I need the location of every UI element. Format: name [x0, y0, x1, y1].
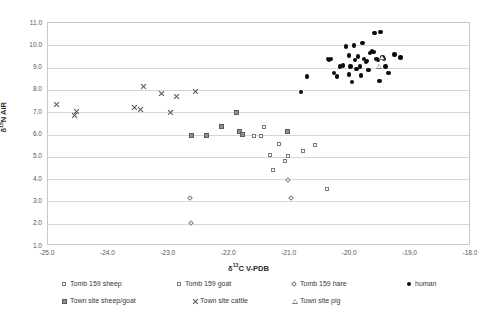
legend-item[interactable]: human [407, 279, 436, 289]
filled-circle-marker [407, 282, 411, 286]
open-square-marker [313, 143, 317, 147]
filled-circle-marker [360, 41, 364, 45]
legend-label: Tomb 159 goat [185, 280, 231, 287]
y-tick-label: 10.0 [8, 41, 42, 48]
legend-marker [177, 280, 185, 288]
filled-square-marker [219, 124, 224, 129]
x-tick-label: -20.0 [334, 249, 364, 256]
y-tick-label: 8.0 [8, 85, 42, 92]
y-tick-label: 3.0 [8, 197, 42, 204]
filled-square-marker [240, 132, 245, 137]
legend-label: Tomb 159 hare [300, 280, 347, 287]
cross-marker [192, 89, 198, 95]
y-tick-label: 5.0 [8, 152, 42, 159]
open-square-marker [301, 149, 305, 153]
legend: Tomb 159 sheepTomb 159 goatTomb 159 hare… [62, 279, 462, 313]
cross-marker [140, 83, 146, 89]
x-tick-label: -23.0 [153, 249, 183, 256]
open-square-marker [325, 187, 329, 191]
filled-circle-marker [348, 64, 352, 68]
y-tick-label: 1.0 [8, 242, 42, 249]
gridline [48, 201, 469, 202]
filled-circle-marker [352, 43, 356, 47]
open-triangle-marker [292, 299, 298, 304]
cross-marker [192, 299, 198, 305]
open-triangle-marker [379, 55, 385, 60]
filled-circle-marker [341, 63, 345, 67]
filled-circle-marker [372, 31, 376, 35]
filled-circle-marker [305, 74, 309, 78]
x-tick-label: -22.0 [213, 249, 243, 256]
cross-marker [137, 107, 143, 113]
y-tick-label: 6.0 [8, 130, 42, 137]
open-square-marker [286, 154, 290, 158]
y-axis-title: δ15N AIR [0, 72, 8, 162]
filled-circle-marker [392, 52, 396, 56]
filled-circle-marker [344, 44, 348, 48]
legend-label: Town site sheep/goat [70, 297, 136, 304]
legend-item[interactable]: Tomb 159 hare [292, 279, 347, 289]
gridline [48, 224, 469, 225]
open-square-marker [277, 142, 281, 146]
gridline [48, 68, 469, 69]
x-tick-label: -21.0 [274, 249, 304, 256]
open-square-marker [262, 125, 266, 129]
legend-marker [292, 280, 300, 288]
legend-label: Tomb 159 sheep [70, 280, 122, 287]
x-tick-label: -18.0 [455, 249, 485, 256]
gridline [48, 90, 469, 91]
legend-item[interactable]: Tomb 159 sheep [62, 279, 122, 289]
legend-label: Town site cattle [200, 297, 248, 304]
x-tick-label: -24.0 [92, 249, 122, 256]
legend-marker [192, 297, 200, 305]
filled-circle-marker [335, 74, 339, 78]
filled-circle-marker [358, 64, 362, 68]
legend-row-2: Town site sheep/goatTown site cattleTown… [62, 296, 462, 313]
open-square-marker [283, 159, 287, 163]
filled-circle-marker [366, 68, 370, 72]
filled-square-marker [234, 110, 239, 115]
x-tick-label: -19.0 [395, 249, 425, 256]
open-square-marker [252, 134, 256, 138]
open-square-marker [62, 282, 66, 286]
cross-marker [53, 101, 59, 107]
legend-item[interactable]: Town site sheep/goat [62, 296, 136, 306]
open-square-marker [259, 134, 263, 138]
legend-row-1: Tomb 159 sheepTomb 159 goatTomb 159 hare… [62, 279, 462, 296]
legend-label: Town site pig [300, 297, 340, 304]
legend-marker [62, 297, 70, 305]
cross-marker [158, 91, 164, 97]
open-triangle-marker [376, 64, 382, 69]
filled-circle-marker [398, 55, 402, 59]
legend-label: human [415, 280, 436, 287]
cross-marker [167, 110, 173, 116]
scatter-plot-figure: 1.02.03.04.05.06.07.08.09.010.011.0 -25.… [0, 0, 497, 316]
cross-marker [73, 109, 79, 115]
gridline [48, 45, 469, 46]
open-square-marker [177, 282, 181, 286]
cross-marker [173, 93, 179, 99]
open-square-marker [268, 153, 272, 157]
legend-marker [292, 297, 300, 305]
open-square-marker [271, 168, 275, 172]
filled-square-marker [189, 133, 194, 138]
legend-marker [62, 280, 70, 288]
filled-square-marker [285, 129, 290, 134]
y-tick-label: 2.0 [8, 219, 42, 226]
filled-square-marker [204, 133, 209, 138]
legend-item[interactable]: Town site pig [292, 296, 340, 306]
filled-circle-marker [347, 72, 351, 76]
y-tick-label: 7.0 [8, 108, 42, 115]
filled-circle-marker [378, 30, 382, 34]
filled-circle-marker [383, 64, 387, 68]
y-tick-label: 11.0 [8, 19, 42, 26]
filled-square-marker [62, 299, 67, 304]
y-tick-label: 9.0 [8, 63, 42, 70]
open-diamond-marker [291, 281, 297, 287]
x-tick-label: -25.0 [32, 249, 62, 256]
legend-item[interactable]: Tomb 159 goat [177, 279, 231, 289]
y-tick-label: 4.0 [8, 175, 42, 182]
filled-circle-marker [377, 79, 381, 83]
filled-circle-marker [371, 50, 375, 54]
legend-item[interactable]: Town site cattle [192, 296, 248, 306]
